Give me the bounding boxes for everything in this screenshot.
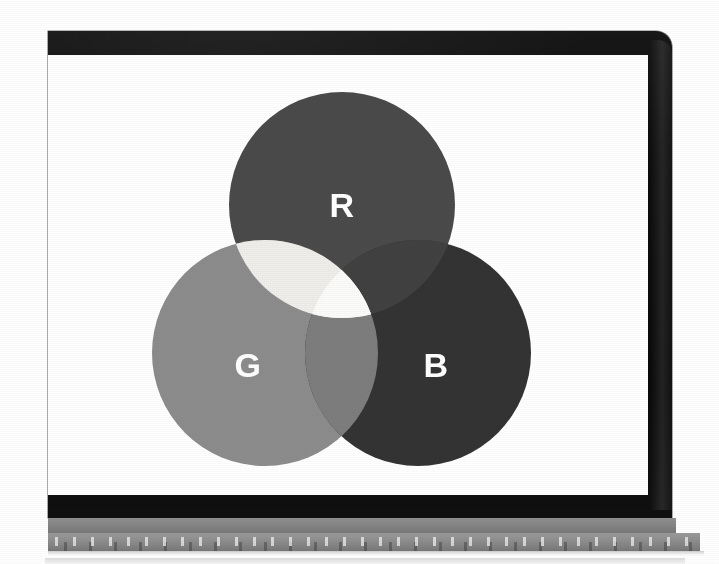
venn-label-r: R [329,186,354,224]
laptop-device: R G B [0,0,719,564]
venn-label-g: G [235,346,262,384]
venn-label-b: B [423,346,448,384]
laptop-screen-viewport: R G B [48,55,648,495]
venn-diagram-svg: R G B [48,55,648,495]
laptop-keyboard-deck [48,533,700,553]
laptop-base-band [45,558,685,564]
venn-diagram: R G B [48,55,648,495]
keyboard-keys[interactable] [48,533,700,553]
laptop-hinge [48,518,676,533]
laptop-deck-edge [48,551,704,556]
screenshot-stage: R G B [0,0,719,564]
